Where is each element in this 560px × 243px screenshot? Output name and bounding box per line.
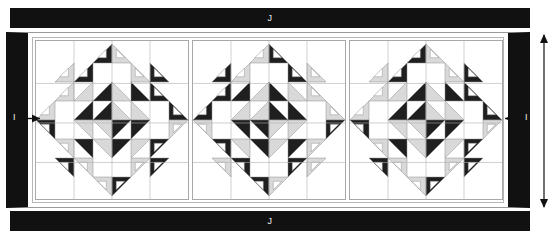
quilt-diagram-stage: J I I J [0, 0, 560, 243]
star-block-2 [192, 40, 346, 200]
star-block-3 [349, 40, 503, 200]
vertical-dimension-arrow-icon [538, 33, 550, 209]
right-dimension-arrow-icon [504, 113, 526, 124]
quilt-panel-inner [32, 37, 504, 203]
top-band-label: J [10, 14, 530, 23]
quilt-panel [6, 32, 530, 208]
left-dimension-label: I [13, 113, 16, 122]
bottom-band-label: J [10, 217, 530, 226]
left-dimension-arrow-icon [19, 113, 41, 124]
star-block-1 [35, 40, 189, 200]
top-border-band: J [10, 8, 530, 28]
bottom-border-band: J [10, 211, 530, 231]
top-whitespace [0, 0, 560, 7]
